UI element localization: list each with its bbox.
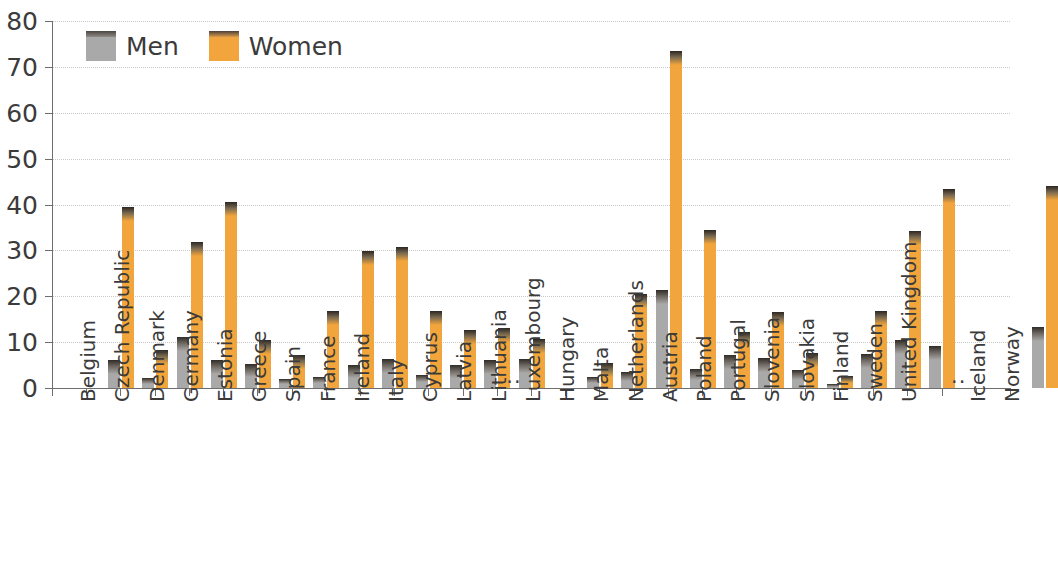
x-axis-category-label: Spain <box>283 346 303 402</box>
y-axis-tick <box>45 342 52 343</box>
y-axis-line <box>52 21 53 389</box>
x-axis-category-label: United Kingdom <box>899 241 919 402</box>
y-axis-tick-label: 40 <box>6 190 38 219</box>
y-axis-tick <box>45 67 52 68</box>
y-axis-tick <box>45 250 52 251</box>
x-axis-category-label: Poland <box>694 335 714 402</box>
legend-item-women: Women <box>209 31 343 61</box>
bar-women <box>943 189 955 388</box>
x-axis-tick <box>942 388 943 396</box>
y-axis-tick-label: 10 <box>6 328 38 357</box>
bar-men <box>929 346 941 388</box>
x-axis-category-label: Czech Republic <box>112 250 132 402</box>
x-axis-category-label: Italy <box>386 359 406 402</box>
x-axis-category-label: Sweden <box>865 323 885 402</box>
x-axis-category-label: France <box>318 335 338 402</box>
x-axis-category-label: Belgium <box>78 320 98 402</box>
x-axis-tick <box>52 388 53 396</box>
gridline <box>52 113 1010 114</box>
bar-men <box>1032 327 1044 388</box>
bar-women <box>1046 186 1058 388</box>
gridline <box>52 67 1010 68</box>
gridline <box>52 21 1010 22</box>
x-axis-category-label: Estonia <box>215 328 235 402</box>
x-axis-category-label: Greece <box>249 331 269 402</box>
y-axis-tick <box>45 205 52 206</box>
y-axis-tick-label: 50 <box>6 144 38 173</box>
y-axis-tick-label: 20 <box>6 282 38 311</box>
no-data-marker: .. <box>506 366 521 387</box>
y-axis-tick <box>45 21 52 22</box>
x-axis-category-label: Luxembourg <box>523 277 543 402</box>
x-axis-category-label: Ireland <box>352 333 372 402</box>
x-axis-category-label: Finland <box>831 331 851 402</box>
x-axis-category-label: Lithuania <box>489 309 509 402</box>
x-axis-category-label: Iceland <box>968 330 988 402</box>
x-axis-category-label: Germany <box>181 310 201 402</box>
gridline <box>52 205 1010 206</box>
y-axis-tick <box>45 388 52 389</box>
x-axis-category-label: Latvia <box>454 341 474 402</box>
y-axis-tick-label: 70 <box>6 52 38 81</box>
y-axis-tick-label: 0 <box>22 374 38 403</box>
legend-item-men: Men <box>86 31 179 61</box>
y-axis-tick <box>45 159 52 160</box>
no-data-marker: .. <box>951 366 966 387</box>
x-axis-category-label: Malta <box>591 347 611 402</box>
y-axis-tick-label: 30 <box>6 236 38 265</box>
x-axis-category-label: Portugal <box>728 319 748 402</box>
legend-swatch-men-icon <box>86 31 116 61</box>
x-axis-category-label: Denmark <box>147 310 167 402</box>
x-axis-category-label: Slovakia <box>797 318 817 402</box>
x-axis-category-label: Slovenia <box>762 317 782 402</box>
x-axis-category-label: Norway <box>1002 326 1022 402</box>
gridline <box>52 159 1010 160</box>
y-axis-tick-label: 60 <box>6 98 38 127</box>
x-axis-category-label: Netherlands <box>626 280 646 402</box>
legend-label-women: Women <box>249 34 343 59</box>
y-axis-tick <box>45 296 52 297</box>
y-axis-tick-label: 80 <box>6 7 38 36</box>
x-axis-category-label: Austria <box>660 331 680 402</box>
x-axis-category-label: Hungary <box>557 317 577 402</box>
x-axis-category-label: Cyprus <box>420 332 440 402</box>
chart-legend: Men Women <box>86 31 343 61</box>
legend-swatch-women-icon <box>209 31 239 61</box>
y-axis-tick <box>45 113 52 114</box>
legend-label-men: Men <box>126 34 179 59</box>
